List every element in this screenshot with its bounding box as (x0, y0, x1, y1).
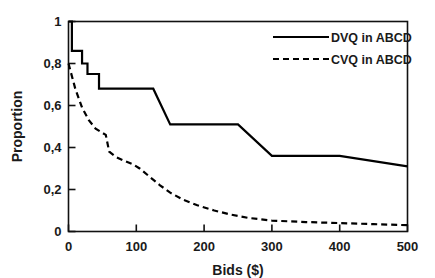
y-axis-tick-label: 0,8 (43, 56, 61, 71)
x-axis-tick-label: 100 (125, 239, 147, 254)
x-axis-tick-label: 500 (397, 239, 419, 254)
legend-label-cvq: CVQ in ABCD (331, 53, 412, 67)
y-axis-tick-label: 0,4 (43, 140, 62, 155)
x-axis-tick-label: 300 (261, 239, 283, 254)
x-axis-tick-label: 400 (329, 239, 351, 254)
x-axis-tick-label: 0 (65, 239, 72, 254)
chart-container: 00,20,40,60,810100200300400500Bids ($)Pr… (0, 0, 435, 278)
y-axis-tick-label: 0 (54, 224, 61, 239)
y-axis-title: Proportion (9, 91, 25, 163)
y-axis-tick-label: 0,6 (43, 98, 61, 113)
x-axis-tick-label: 200 (193, 239, 215, 254)
y-axis-tick-label: 0,2 (43, 182, 61, 197)
x-axis-title: Bids ($) (212, 262, 263, 278)
legend-label-dvq: DVQ in ABCD (331, 31, 412, 45)
proportion-vs-bids-chart: 00,20,40,60,810100200300400500Bids ($)Pr… (0, 0, 435, 278)
y-axis-tick-label: 1 (54, 14, 61, 29)
